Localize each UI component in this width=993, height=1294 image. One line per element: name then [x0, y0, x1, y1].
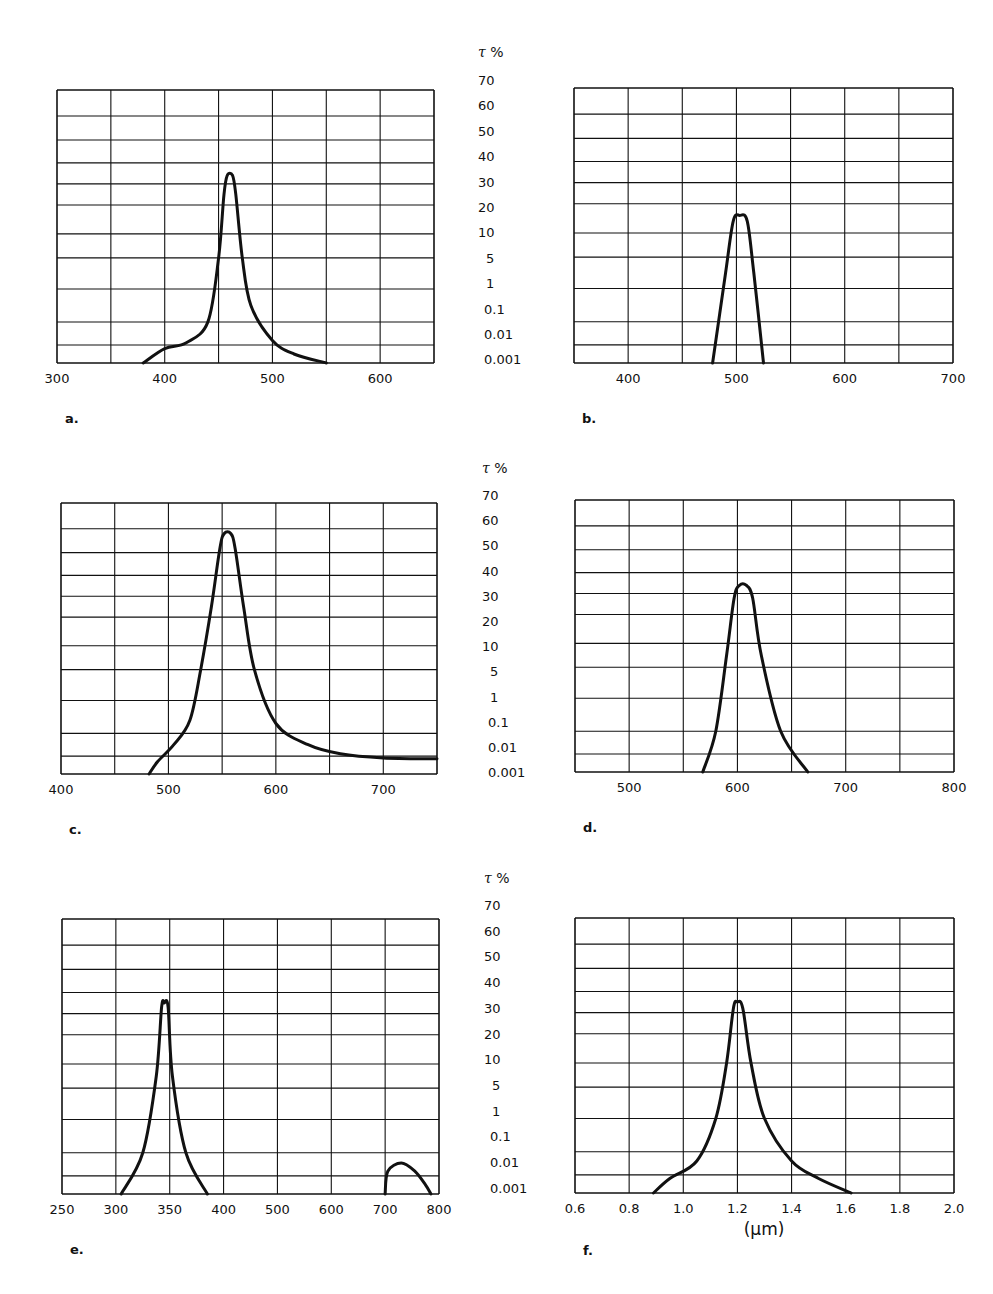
y-tick-label: 1 — [486, 276, 546, 291]
y-tick-label: 30 — [482, 589, 542, 604]
y-tick-label: 1 — [492, 1104, 552, 1119]
percent-unit: % — [486, 44, 504, 60]
y-tick-label: 0.001 — [490, 1181, 550, 1196]
y-tick-label: 10 — [478, 225, 538, 240]
y-tick-label: 40 — [478, 149, 538, 164]
x-tick-label: 1.0 — [673, 1201, 694, 1216]
x-tick-label: 1.6 — [835, 1201, 856, 1216]
x-tick-label: 1.2 — [727, 1201, 748, 1216]
percent-unit: % — [490, 460, 508, 476]
y-tick-label: 50 — [482, 538, 542, 553]
percent-unit: % — [492, 870, 510, 886]
y-tick-label: 50 — [478, 124, 538, 139]
y-axis-title: τ % — [482, 460, 508, 476]
y-tick-label: 20 — [482, 614, 542, 629]
y-tick-label: 0.01 — [488, 740, 548, 755]
y-tick-label: 0.001 — [484, 352, 544, 367]
y-tick-label: 60 — [482, 513, 542, 528]
y-tick-label: 0.1 — [484, 302, 544, 317]
x-tick-label: 0.6 — [565, 1201, 586, 1216]
y-tick-label: 0.01 — [484, 327, 544, 342]
y-tick-label: 40 — [484, 975, 544, 990]
y-tick-label: 70 — [482, 488, 542, 503]
y-tick-label: 70 — [478, 73, 538, 88]
y-tick-label: 30 — [478, 175, 538, 190]
y-tick-label: 0.1 — [488, 715, 548, 730]
y-tick-label: 60 — [478, 98, 538, 113]
panel-label-f: f. — [583, 1243, 593, 1258]
y-axis-title: τ % — [478, 44, 504, 60]
y-tick-label: 10 — [484, 1052, 544, 1067]
tau-symbol: τ — [482, 460, 490, 476]
tau-symbol: τ — [484, 870, 492, 886]
y-tick-label: 5 — [486, 251, 546, 266]
y-tick-label: 0.001 — [488, 765, 548, 780]
y-tick-label: 20 — [484, 1027, 544, 1042]
y-tick-label: 0.01 — [490, 1155, 550, 1170]
y-tick-label: 0.1 — [490, 1129, 550, 1144]
x-tick-label: 1.4 — [781, 1201, 802, 1216]
x-tick-label: 2.0 — [944, 1201, 965, 1216]
x-tick-label: 1.8 — [890, 1201, 911, 1216]
x-axis-unit-label: (μm) — [744, 1219, 785, 1239]
y-tick-label: 50 — [484, 949, 544, 964]
y-tick-label: 40 — [482, 564, 542, 579]
y-tick-label: 20 — [478, 200, 538, 215]
y-axis-title: τ % — [484, 870, 510, 886]
tau-symbol: τ — [478, 44, 486, 60]
y-tick-label: 5 — [492, 1078, 552, 1093]
y-tick-label: 5 — [490, 664, 550, 679]
y-tick-label: 60 — [484, 924, 544, 939]
y-tick-label: 70 — [484, 898, 544, 913]
x-tick-label: 0.8 — [619, 1201, 640, 1216]
y-tick-label: 30 — [484, 1001, 544, 1016]
y-tick-label: 1 — [490, 690, 550, 705]
y-tick-label: 10 — [482, 639, 542, 654]
